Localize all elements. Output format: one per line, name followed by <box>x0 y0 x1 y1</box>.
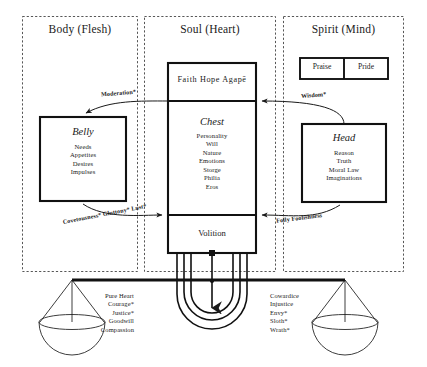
pride-cell: Pride <box>344 63 388 71</box>
head-item: Truth <box>302 157 386 165</box>
chest-item: Eros <box>168 183 256 191</box>
scale-right-item: Envy* <box>270 309 330 317</box>
praise-cell: Praise <box>300 63 344 71</box>
head-title: Head <box>302 132 386 143</box>
belly-item: Desires <box>40 160 126 168</box>
belly-title: Belly <box>40 126 126 137</box>
belly-item: Appetites <box>40 151 126 159</box>
scale-right-item: Sloth* <box>270 317 330 325</box>
column-title-body: Body (Flesh) <box>22 23 138 35</box>
chest-item: Nature <box>168 149 256 157</box>
diagram-canvas: Body (Flesh) Soul (Heart) Spirit (Mind) … <box>0 0 427 367</box>
scale-right-item: Cowardice <box>270 292 330 300</box>
head-item: Imaginations <box>302 174 386 182</box>
scale-left-items: Pure Heart Courage* Justice* Goodwill Co… <box>68 292 134 334</box>
head-items: Reason Truth Moral Law Imaginations <box>302 149 386 183</box>
scale-left-item: Justice* <box>68 309 134 317</box>
scale-right-item: Wrath* <box>270 326 330 334</box>
scale-left-item: Goodwill <box>68 317 134 325</box>
volition-label: Volition <box>168 229 256 238</box>
scale-left-item: Courage* <box>68 300 134 308</box>
scale-right-item: Injustice <box>270 300 330 308</box>
belly-items: Needs Appetites Desires Impulses <box>40 143 126 177</box>
scale-left-item: Compassion <box>68 326 134 334</box>
arrow-moderation <box>86 101 168 113</box>
head-item: Reason <box>302 149 386 157</box>
chest-item: Will <box>168 140 256 148</box>
column-title-soul: Soul (Heart) <box>144 23 276 35</box>
head-item: Moral Law <box>302 166 386 174</box>
chest-item: Storge <box>168 166 256 174</box>
virtues-top-label: Faith Hope Agapē <box>168 76 256 85</box>
belly-item: Impulses <box>40 168 126 176</box>
chest-item: Emotions <box>168 157 256 165</box>
arrow-wisdom <box>262 101 344 124</box>
chest-items: Personality Will Nature Emotions Storge … <box>168 132 256 191</box>
column-title-spirit: Spirit (Mind) <box>283 23 404 35</box>
chest-item: Personality <box>168 132 256 140</box>
chest-item: Philia <box>168 174 256 182</box>
scale-right-items: Cowardice Injustice Envy* Sloth* Wrath* <box>270 292 330 334</box>
scale-left-item: Pure Heart <box>68 292 134 300</box>
chest-title: Chest <box>168 116 256 127</box>
belly-item: Needs <box>40 143 126 151</box>
